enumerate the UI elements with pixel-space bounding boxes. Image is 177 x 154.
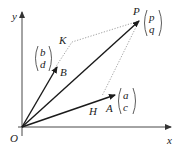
point-h-label: H: [88, 105, 98, 117]
vector-op: [22, 21, 139, 127]
vector-oa: [22, 95, 115, 127]
point-k-label: K: [58, 34, 67, 46]
vector-diagram: y x O K B P H A b d p q a c: [0, 0, 177, 154]
svg-text:p: p: [148, 11, 155, 23]
y-axis-label: y: [11, 10, 17, 22]
svg-text:d: d: [40, 58, 46, 70]
vector-ob: [22, 67, 57, 127]
svg-text:c: c: [123, 101, 128, 113]
dotted-p-h: [102, 21, 139, 96]
svg-text:a: a: [123, 89, 129, 101]
column-vector-b: b d: [36, 46, 52, 71]
point-b-label: B: [60, 66, 67, 78]
column-vector-a: a c: [119, 88, 136, 114]
point-p-label: P: [132, 5, 140, 17]
point-a-label: A: [105, 102, 113, 114]
x-axis-label: x: [166, 134, 172, 146]
svg-text:q: q: [149, 23, 155, 35]
column-vector-p: p q: [145, 10, 162, 36]
dotted-b-k-p: [55, 21, 139, 68]
origin-label: O: [10, 132, 18, 144]
svg-text:b: b: [40, 46, 46, 58]
